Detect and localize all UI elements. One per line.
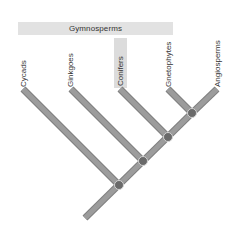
angiosperms-branch: [192, 89, 217, 113]
node-3: [139, 157, 148, 166]
cycads-branch: [23, 89, 119, 185]
node-1: [188, 109, 197, 118]
taxon-label-conifers: Conifers: [115, 36, 126, 86]
cladogram: Gymnosperms: [0, 0, 242, 236]
taxon-label-angiosperms: Angiosperms: [212, 37, 223, 87]
gnetophytes-branch: [168, 89, 192, 113]
taxon-label-gnetophytes: Gnetophytes: [163, 37, 174, 87]
node-2: [164, 133, 173, 142]
conifers-branch: [120, 89, 168, 137]
taxon-label-ginkgoes: Ginkgoes: [65, 37, 76, 87]
node-4: [115, 181, 124, 190]
taxon-label-cycads: Cycads: [18, 37, 29, 87]
